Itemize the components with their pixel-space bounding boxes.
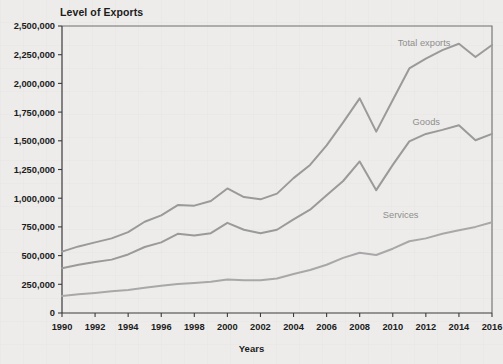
chart-figure: Level of Exports 0250,000500,000750,0001… bbox=[0, 0, 503, 364]
series-label-services: Services bbox=[383, 210, 419, 220]
x-tick-label: 2016 bbox=[482, 322, 503, 332]
y-tick-label: 2,000,000 bbox=[14, 79, 55, 89]
plot-frame bbox=[62, 26, 492, 313]
x-tick-label: 2008 bbox=[349, 322, 370, 332]
y-tick-label: 1,250,000 bbox=[14, 165, 55, 175]
x-tick-label: 2010 bbox=[382, 322, 403, 332]
x-tick-label: 2004 bbox=[283, 322, 305, 332]
y-tick-label: 500,000 bbox=[21, 251, 55, 261]
series-line-total-exports bbox=[62, 44, 492, 252]
x-tick-label: 2014 bbox=[449, 322, 471, 332]
series-line-goods bbox=[62, 125, 492, 268]
x-axis-title: Years bbox=[0, 343, 503, 354]
series-label-total-exports: Total exports bbox=[398, 38, 451, 48]
x-tick-label: 2000 bbox=[217, 322, 238, 332]
y-tick-label: 2,250,000 bbox=[14, 50, 55, 60]
x-tick-label: 1992 bbox=[85, 322, 106, 332]
x-tick-label: 1998 bbox=[184, 322, 205, 332]
y-tick-label: 1,750,000 bbox=[14, 108, 55, 118]
y-tick-label: 250,000 bbox=[21, 280, 55, 290]
y-tick-label: 0 bbox=[50, 308, 55, 318]
x-tick-label: 2012 bbox=[416, 322, 437, 332]
y-tick-label: 750,000 bbox=[21, 222, 55, 232]
x-tick-label: 1994 bbox=[118, 322, 140, 332]
series-label-goods: Goods bbox=[413, 117, 441, 127]
x-tick-label: 1990 bbox=[52, 322, 73, 332]
y-tick-label: 1,000,000 bbox=[14, 194, 55, 204]
y-tick-label: 1,500,000 bbox=[14, 136, 55, 146]
x-tick-label: 2006 bbox=[316, 322, 337, 332]
x-tick-label: 2002 bbox=[250, 322, 271, 332]
line-chart-plot: 0250,000500,000750,0001,000,0001,250,000… bbox=[0, 0, 503, 364]
y-tick-label: 2,500,000 bbox=[14, 21, 55, 31]
x-tick-label: 1996 bbox=[151, 322, 172, 332]
